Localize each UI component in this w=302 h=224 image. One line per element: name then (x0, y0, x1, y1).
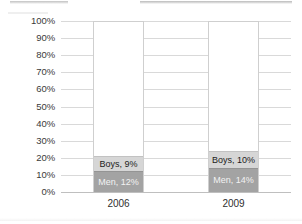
y-tick-label: 60% (0, 85, 55, 95)
y-tick-label: 80% (0, 50, 55, 60)
segment-data-label: Men, 12% (98, 178, 139, 187)
segment-data-label: Boys, 10% (212, 156, 255, 165)
y-tick-label: 10% (0, 170, 55, 180)
x-tick-label: 2006 (107, 198, 129, 209)
bar-segment-boys[interactable]: Boys, 9% (94, 156, 143, 171)
y-tick-label: 0% (0, 187, 55, 197)
y-tick-label: 20% (0, 153, 55, 163)
scan-artifact-bottom (0, 218, 302, 221)
bar-column[interactable]: Boys, 9%Men, 12% (93, 21, 144, 192)
y-tick-label: 30% (0, 136, 55, 146)
gridline-0 (61, 192, 291, 193)
segment-data-label: Men, 14% (213, 176, 254, 185)
bar-segment-boys[interactable]: Boys, 10% (209, 151, 258, 168)
bar-segment-men[interactable]: Men, 12% (94, 171, 143, 192)
bar-segment-men[interactable]: Men, 14% (209, 168, 258, 192)
bar-segment-remainder[interactable] (209, 22, 258, 151)
y-tick-label: 40% (0, 119, 55, 129)
segment-data-label: Boys, 9% (99, 160, 137, 169)
stacked-bar-chart: 100%90%80%70%60%50%40%30%20%10%0% Boys, … (0, 0, 302, 224)
bar-column[interactable]: Boys, 10%Men, 14% (208, 21, 259, 192)
y-tick-label: 70% (0, 68, 55, 78)
plot-area: Boys, 9%Men, 12%Boys, 10%Men, 14% (61, 21, 291, 192)
bar-segment-remainder[interactable] (94, 22, 143, 156)
x-axis-labels: 20062009 (61, 198, 291, 218)
y-axis-labels: 100%90%80%70%60%50%40%30%20%10%0% (0, 21, 55, 192)
scan-artifact-top-right (140, 1, 292, 4)
y-tick-label: 100% (0, 16, 55, 26)
x-tick-label: 2009 (222, 198, 244, 209)
scan-artifact-top-left (10, 1, 68, 4)
y-tick-label: 50% (0, 102, 55, 112)
y-tick-label: 90% (0, 33, 55, 43)
scan-artifact-top-faint (8, 12, 48, 14)
